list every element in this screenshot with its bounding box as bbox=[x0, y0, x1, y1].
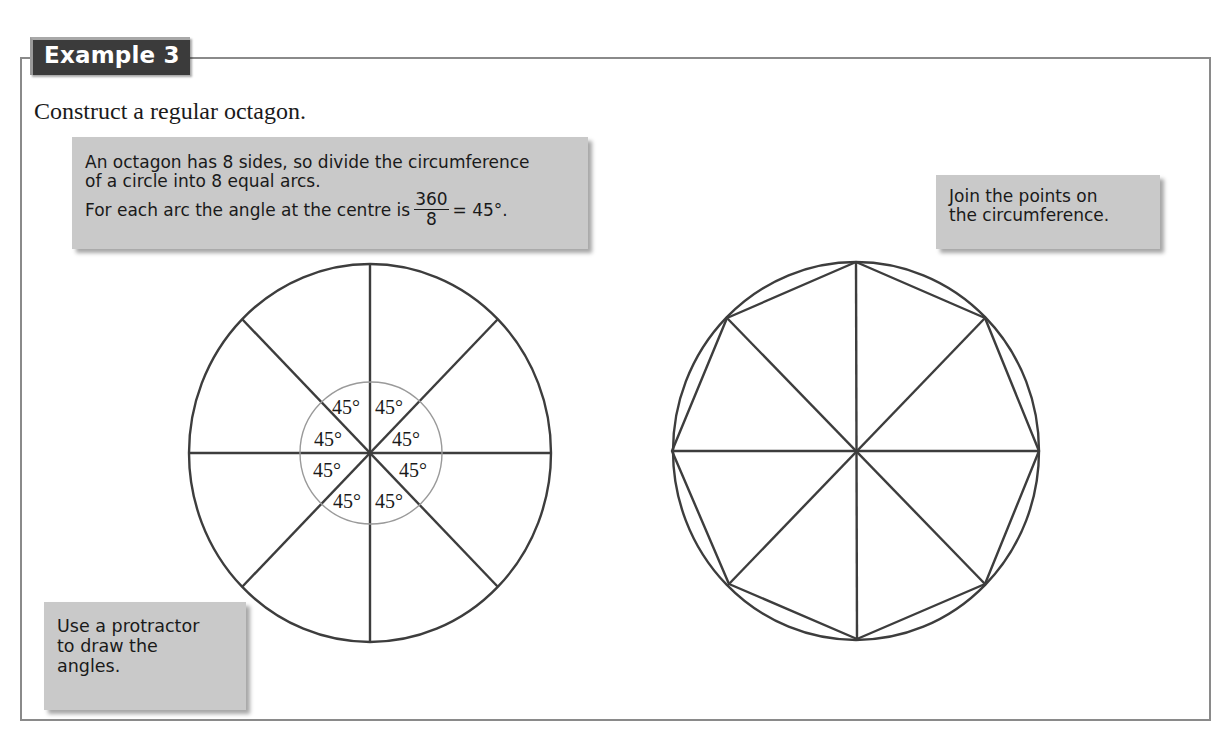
left-figure-divided-circle bbox=[189, 264, 551, 642]
angle-label-2: 45° bbox=[375, 396, 403, 418]
construction-diagrams: 45° 45° 45° 45° 45° 45° 45° 45° bbox=[0, 0, 1230, 741]
angle-label-5: 45° bbox=[375, 490, 403, 512]
angle-label-7: 45° bbox=[313, 459, 341, 481]
angle-label-6: 45° bbox=[333, 490, 361, 512]
right-figure-inscribed-octagon bbox=[672, 262, 1039, 640]
angle-label-3: 45° bbox=[392, 428, 420, 450]
angle-label-8: 45° bbox=[314, 428, 342, 450]
angle-label-4: 45° bbox=[399, 459, 427, 481]
angle-label-1: 45° bbox=[332, 396, 360, 418]
